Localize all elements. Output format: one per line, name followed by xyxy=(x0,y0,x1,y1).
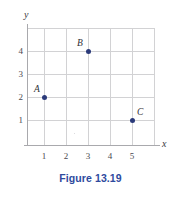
gridline-horizontal-y1 xyxy=(27,120,155,121)
gridline-horizontal-y4 xyxy=(27,51,155,52)
data-point-label-a: A xyxy=(34,85,40,95)
data-point-b[interactable] xyxy=(86,49,91,54)
y-tick-label-1: 1 xyxy=(13,116,23,125)
x-tick-label-2: 2 xyxy=(61,152,71,161)
x-tick-label-3: 3 xyxy=(83,152,93,161)
data-point-label-c: C xyxy=(137,108,143,118)
gridline-vertical-x1 xyxy=(44,28,45,145)
gridline-horizontal-y3 xyxy=(27,74,155,75)
y-axis-line xyxy=(27,24,28,146)
data-point-c[interactable] xyxy=(130,118,135,123)
y-tick-label-4: 4 xyxy=(13,47,23,56)
figure-caption: Figure 13.19 xyxy=(0,172,181,185)
gridline-horizontal-y5 xyxy=(27,28,155,29)
gridline-vertical-x3 xyxy=(88,28,89,145)
interior-mark xyxy=(74,133,75,134)
y-tick-label-2: 2 xyxy=(13,93,23,102)
y-tick-label-3: 3 xyxy=(13,70,23,79)
gridline-vertical-x6 xyxy=(154,28,155,145)
gridline-vertical-x2 xyxy=(66,28,67,145)
x-axis-line xyxy=(24,145,160,146)
figure-13-19: y x 1 2 3 4 5 1 2 3 4 A B C Figure 13.19 xyxy=(0,0,181,198)
gridline-vertical-x5 xyxy=(132,28,133,145)
y-axis-label: y xyxy=(24,10,28,20)
x-tick-label-5: 5 xyxy=(127,152,137,161)
x-tick-label-4: 4 xyxy=(105,152,115,161)
data-point-a[interactable] xyxy=(42,95,47,100)
gridline-vertical-x4 xyxy=(110,28,111,145)
x-tick-label-1: 1 xyxy=(39,152,49,161)
x-axis-label: x xyxy=(162,139,166,149)
coordinate-plane: y x 1 2 3 4 5 1 2 3 4 A B C xyxy=(0,0,181,170)
data-point-label-b: B xyxy=(77,39,83,49)
